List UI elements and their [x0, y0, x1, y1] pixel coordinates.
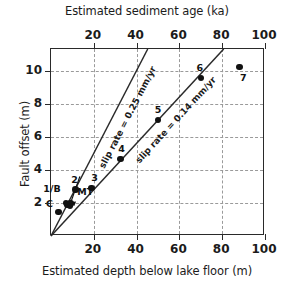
scatter-chart-figure: Estimated sediment age (ka) Estimated de… — [0, 0, 294, 287]
data-point-label-3: 3 — [91, 172, 98, 183]
bottom-axis-title: Estimated depth below lake floor (m) — [0, 264, 294, 278]
tick-bottom — [94, 234, 95, 240]
data-point-7 — [236, 64, 243, 71]
data-point-C — [55, 209, 62, 216]
data-point-label-6: 6 — [196, 61, 203, 72]
tick-top — [179, 43, 180, 49]
tick-top — [222, 43, 223, 49]
ticklabel-left: 10 — [14, 63, 42, 77]
ticklabel-bottom: 60 — [170, 242, 187, 256]
ticklabel-bottom: 40 — [127, 242, 144, 256]
plot-inner: C1/BMT234567 slip rate = 0.25 mm/yrslip … — [51, 49, 263, 234]
ticklabel-top: 80 — [213, 28, 230, 42]
ticklabel-bottom: 20 — [84, 242, 101, 256]
data-point-label-1-B: 1/B — [43, 182, 60, 193]
top-axis-title: Estimated sediment age (ka) — [0, 4, 294, 18]
tick-top — [265, 43, 266, 49]
ticklabel-top: 60 — [170, 28, 187, 42]
tick-top — [94, 43, 95, 49]
data-point-4 — [117, 156, 124, 163]
data-point-MT — [67, 200, 74, 207]
data-point-3 — [88, 185, 95, 192]
ticklabel-top: 40 — [127, 28, 144, 42]
data-point-label-2: 2 — [71, 173, 78, 184]
ticklabel-left: 4 — [14, 162, 42, 176]
ticklabel-left: 8 — [14, 96, 42, 110]
data-point-label-7: 7 — [240, 72, 247, 83]
ticklabel-top: 20 — [84, 28, 101, 42]
tick-bottom — [179, 234, 180, 240]
data-point-2 — [72, 186, 79, 193]
tick-left — [45, 137, 51, 138]
tick-left — [45, 104, 51, 105]
ticklabel-left: 6 — [14, 129, 42, 143]
tick-bottom — [265, 234, 266, 240]
tick-left — [45, 170, 51, 171]
tick-top — [137, 43, 138, 49]
ticklabel-bottom: 80 — [213, 242, 230, 256]
data-point-label-5: 5 — [155, 104, 162, 115]
plot-area: C1/BMT234567 slip rate = 0.25 mm/yrslip … — [50, 48, 264, 235]
ticklabel-top: 100 — [251, 28, 276, 42]
ticklabel-bottom: 100 — [251, 242, 276, 256]
tick-left — [45, 203, 51, 204]
tick-left — [45, 71, 51, 72]
tick-bottom — [222, 234, 223, 240]
ticklabel-left: 2 — [14, 195, 42, 209]
tick-bottom — [137, 234, 138, 240]
